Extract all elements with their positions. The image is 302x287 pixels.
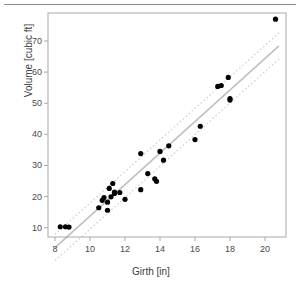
data-point: [157, 149, 162, 154]
x-tick-label: 8: [52, 245, 57, 254]
data-point: [219, 83, 224, 88]
data-point: [58, 224, 63, 229]
y-tick-label: 10: [16, 223, 42, 232]
scatter-plot-canvas: [0, 0, 302, 287]
data-point: [154, 179, 159, 184]
data-point: [227, 98, 232, 103]
data-point: [101, 195, 106, 200]
y-tick-label: 20: [16, 192, 42, 201]
data-point: [192, 137, 197, 142]
chart-figure: 102030405060708101214161820 Girth [in] V…: [0, 0, 302, 287]
data-point: [138, 151, 143, 156]
data-point: [145, 171, 150, 176]
y-axis-title: Volume [cubic ft]: [23, 0, 34, 151]
data-point: [107, 186, 112, 191]
upper-confidence-band: [55, 33, 279, 235]
data-point: [96, 205, 101, 210]
plot-box-border: [48, 13, 286, 237]
plot-box-rect: [48, 13, 286, 237]
axis-tick-layer: [44, 41, 265, 241]
data-point: [161, 158, 166, 163]
y-tick-label: 30: [16, 161, 42, 170]
data-point: [66, 224, 71, 229]
data-point: [198, 124, 203, 129]
x-tick-label: 16: [190, 245, 200, 254]
x-axis-title: Girth [in]: [0, 266, 302, 277]
data-point: [105, 200, 110, 205]
data-point: [112, 190, 117, 195]
data-point: [110, 181, 115, 186]
x-tick-label: 20: [260, 245, 270, 254]
x-tick-label: 14: [155, 245, 165, 254]
data-point-layer: [58, 17, 278, 230]
x-tick-label: 10: [85, 245, 95, 254]
x-tick-label: 18: [225, 245, 235, 254]
lower-confidence-band: [55, 59, 279, 261]
data-point: [226, 75, 231, 80]
data-point: [122, 197, 127, 202]
data-point: [273, 17, 278, 22]
data-point: [138, 187, 143, 192]
data-point: [105, 208, 110, 213]
x-tick-label: 12: [120, 245, 130, 254]
data-point: [166, 143, 171, 148]
data-point: [117, 190, 122, 195]
